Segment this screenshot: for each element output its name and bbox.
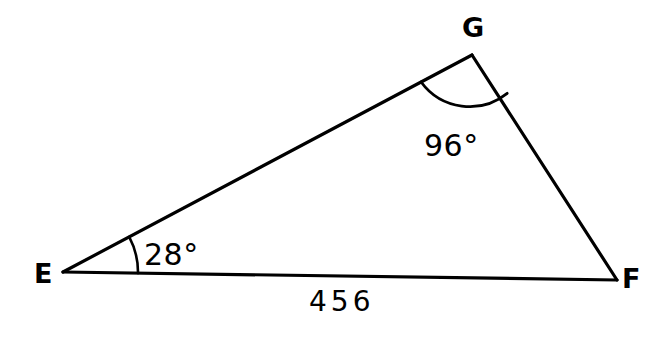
side-eg-line (63, 55, 472, 272)
angle-arc-g (421, 82, 507, 107)
angle-label-e: 28° (144, 240, 199, 270)
angle-label-g: 96° (424, 131, 479, 161)
triangle-diagram-canvas: E F G 28° 96° 456 (0, 0, 665, 338)
vertex-label-g: G (462, 14, 484, 41)
vertex-label-f: F (622, 265, 640, 292)
vertex-label-e: E (34, 260, 52, 287)
side-ef-line (63, 272, 617, 280)
angle-arc-e (129, 237, 138, 273)
side-length-label-ef: 456 (309, 288, 374, 316)
side-gf-line (472, 55, 617, 280)
